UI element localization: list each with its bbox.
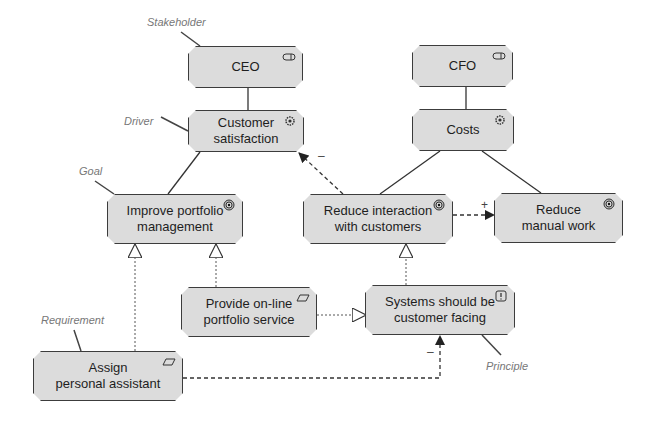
annotation-stakeholder: Stakeholder [147,16,206,28]
stakeholder-icon [492,50,506,62]
node-systems-customer-facing[interactable]: Systems should be customer facing [365,285,515,335]
edge-customer-satisfaction-improve-portfolio [168,152,200,194]
goal-icon [432,199,446,211]
requirement-icon [296,292,310,304]
node-provide-online[interactable]: Provide on-line portfolio service [181,287,317,337]
node-label: Customer satisfaction [199,115,292,147]
goal-icon [222,199,236,211]
edge-costs-reduce-manual-work [482,151,541,193]
node-reduce-manual-work[interactable]: Reduce manual work [494,193,623,243]
node-improve-portfolio[interactable]: Improve portfolio management [107,194,243,244]
influence-sign-customer-satisfaction: – [318,149,325,163]
node-cfo[interactable]: CFO [412,45,513,87]
stakeholder-icon [282,51,296,63]
requirement-icon [162,356,176,368]
driver-leader [161,117,188,131]
principle-icon [494,290,508,302]
node-ceo[interactable]: CEO [188,46,303,88]
driver-icon [283,115,297,127]
node-label: Systems should be customer facing [371,294,509,326]
principle-leader [482,335,501,355]
node-label: Costs [432,122,493,138]
stakeholder-leader [181,32,200,46]
goal-leader [95,181,114,194]
node-label: CFO [435,58,490,74]
edge-costs-reduce-interaction [380,151,440,194]
annotation-goal: Goal [79,165,102,177]
node-label: Reduce interaction with customers [310,203,446,235]
goal-icon [602,198,616,210]
node-label: Assign personal assistant [42,360,175,392]
node-label: Provide on-line portfolio service [189,296,308,328]
node-costs[interactable]: Costs [412,109,514,151]
driver-icon [493,114,507,126]
influence-sign-reduce-manual-work: + [481,198,488,212]
node-reduce-interaction[interactable]: Reduce interaction with customers [303,194,453,244]
requirement-leader [74,330,81,351]
node-assign-assistant[interactable]: Assign personal assistant [33,351,183,401]
node-customer-satisfaction[interactable]: Customer satisfaction [188,110,304,152]
annotation-driver: Driver [124,115,153,127]
node-label: CEO [217,59,273,75]
influence-sign-systems: – [427,345,434,359]
annotation-requirement: Requirement [41,314,104,326]
node-label: Reduce manual work [508,202,610,234]
edge-assign-systems-customer-facing [183,336,440,378]
node-label: Improve portfolio management [113,203,238,235]
annotation-principle: Principle [486,360,528,372]
